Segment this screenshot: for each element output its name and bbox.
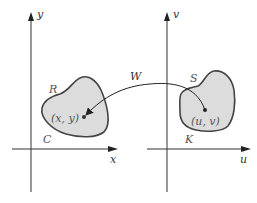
point-xy-label: (x, y) <box>51 112 79 125</box>
boundary-k-label: K <box>184 133 194 146</box>
left-y-arrow-icon <box>28 12 34 21</box>
right-v-arrow-icon <box>164 12 170 21</box>
left-coordinate-plane: x y R (x, y) C <box>12 8 118 192</box>
right-v-axis-label: v <box>173 8 180 21</box>
point-xy <box>82 115 86 119</box>
right-u-arrow-icon <box>241 146 251 152</box>
right-u-axis-label: u <box>240 153 247 166</box>
left-x-arrow-icon <box>108 146 118 152</box>
region-r-label: R <box>48 83 57 96</box>
mapping-w-label: W <box>130 70 143 83</box>
transformation-diagram: x y R (x, y) C u v S (u, v) K W <box>0 0 257 203</box>
left-y-axis-label: y <box>36 8 44 21</box>
left-x-axis-label: x <box>110 153 117 166</box>
right-coordinate-plane: u v S (u, v) K <box>147 8 251 192</box>
point-uv-label: (u, v) <box>191 115 220 128</box>
region-s-label: S <box>190 72 198 85</box>
boundary-c-label: C <box>43 133 52 146</box>
